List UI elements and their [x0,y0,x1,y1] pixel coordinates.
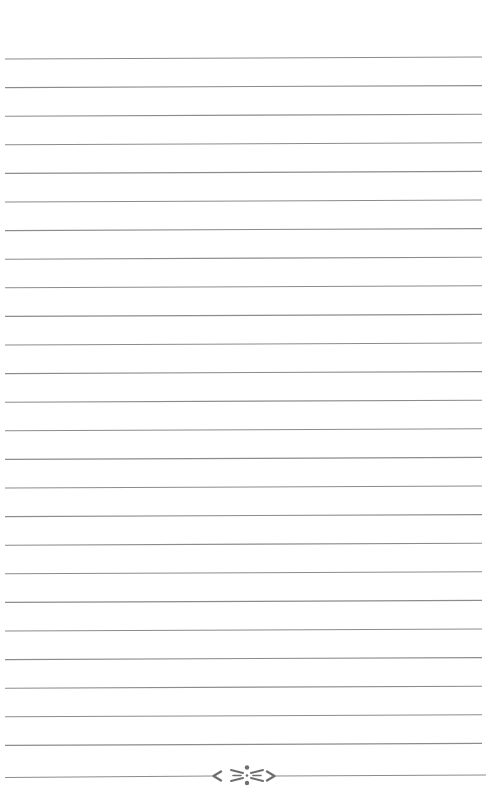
notebook-page [0,0,501,803]
ornament-left-line [5,776,214,778]
footer-ornament [0,0,501,803]
flourish-icon [214,765,275,785]
ornament-right-line [274,775,486,776]
